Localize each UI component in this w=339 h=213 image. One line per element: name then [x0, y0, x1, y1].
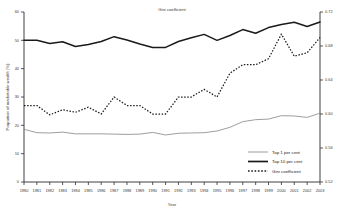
- x-axis-tick-label: 2001: [290, 188, 299, 193]
- y-axis-right: 0.520.560.600.640.680.72: [320, 9, 333, 184]
- x-axis: 1980198119821983198419851986198719881989…: [20, 182, 325, 207]
- y-axis-right-tick-label: 0.72: [325, 9, 333, 14]
- y-axis-right-tick-label: 0.52: [325, 179, 333, 184]
- x-axis-tick-label: 1986: [97, 188, 106, 193]
- y-axis-left: 0102030405060 Proportion of marketable w…: [5, 9, 24, 184]
- x-axis-tick-label: 1985: [84, 188, 93, 193]
- y-axis-left-tick-label: 50: [15, 38, 20, 43]
- y-axis-left-ticks: 0102030405060: [15, 9, 24, 184]
- x-axis-tick-label: 1998: [251, 188, 260, 193]
- y-axis-right-tick-label: 0.60: [325, 111, 333, 116]
- x-axis-tick-label: 1984: [71, 188, 80, 193]
- x-axis-tick-label: 1997: [238, 188, 247, 193]
- x-axis-tick-label: 1980: [20, 188, 29, 193]
- y-axis-right-ticks: 0.520.560.600.640.680.72: [320, 9, 333, 184]
- x-axis-tick-label: 2000: [277, 188, 286, 193]
- x-axis-ticks: 1980198119821983198419851986198719881989…: [20, 182, 325, 193]
- wealth-inequality-chart: Gini coefficient 0102030405060 Proportio…: [0, 0, 339, 213]
- x-axis-tick-label: 2002: [303, 188, 312, 193]
- x-axis-tick-label: 1995: [213, 188, 222, 193]
- x-axis-tick-label: 1991: [161, 188, 170, 193]
- x-axis-tick-label: 1988: [123, 188, 132, 193]
- y-axis-left-tick-label: 20: [15, 123, 20, 128]
- x-axis-title: Year: [168, 202, 177, 207]
- y-axis-left-tick-label: 10: [15, 151, 20, 156]
- x-axis-tick-label: 1999: [264, 188, 273, 193]
- series-group: [24, 22, 320, 135]
- x-axis-tick-label: 1990: [148, 188, 157, 193]
- legend-label-top-1-percent: Top 1 per cent: [272, 150, 301, 155]
- y-axis-right-tick-label: 0.64: [325, 77, 333, 82]
- y-axis-left-tick-label: 0: [17, 179, 20, 184]
- series-line-top-10-percent: [24, 22, 320, 47]
- x-axis-tick-label: 1987: [110, 188, 119, 193]
- x-axis-tick-label: 1993: [187, 188, 196, 193]
- y-axis-right-tick-label: 0.68: [325, 43, 333, 48]
- x-axis-tick-label: 1992: [174, 188, 183, 193]
- y-axis-left-tick-label: 40: [15, 66, 20, 71]
- chart-title: Gini coefficient: [158, 7, 186, 12]
- series-line-top-1-percent: [24, 113, 320, 135]
- chart-title-group: Gini coefficient: [158, 7, 186, 12]
- x-axis-tick-label: 1996: [226, 188, 235, 193]
- legend-label-gini-coefficient: Gini coefficient: [272, 169, 301, 174]
- x-axis-tick-label: 1983: [58, 188, 67, 193]
- x-axis-tick-label: 1981: [33, 188, 42, 193]
- y-axis-left-tick-label: 30: [15, 94, 20, 99]
- chart-page: Gini coefficient 0102030405060 Proportio…: [0, 0, 339, 213]
- legend-label-top-10-percent: Top 10 per cent: [272, 159, 303, 164]
- y-axis-left-title: Proportion of marketable wealth (%): [5, 63, 10, 130]
- x-axis-tick-label: 1989: [135, 188, 144, 193]
- y-axis-right-tick-label: 0.56: [325, 145, 333, 150]
- x-axis-tick-label: 1994: [200, 188, 209, 193]
- x-axis-tick-label: 1982: [45, 188, 54, 193]
- series-line-gini-coefficient: [24, 34, 320, 115]
- legend: Top 1 per cent Top 10 per cent Gini coef…: [248, 150, 303, 174]
- x-axis-tick-label: 2003: [316, 188, 325, 193]
- y-axis-left-tick-label: 60: [15, 9, 20, 14]
